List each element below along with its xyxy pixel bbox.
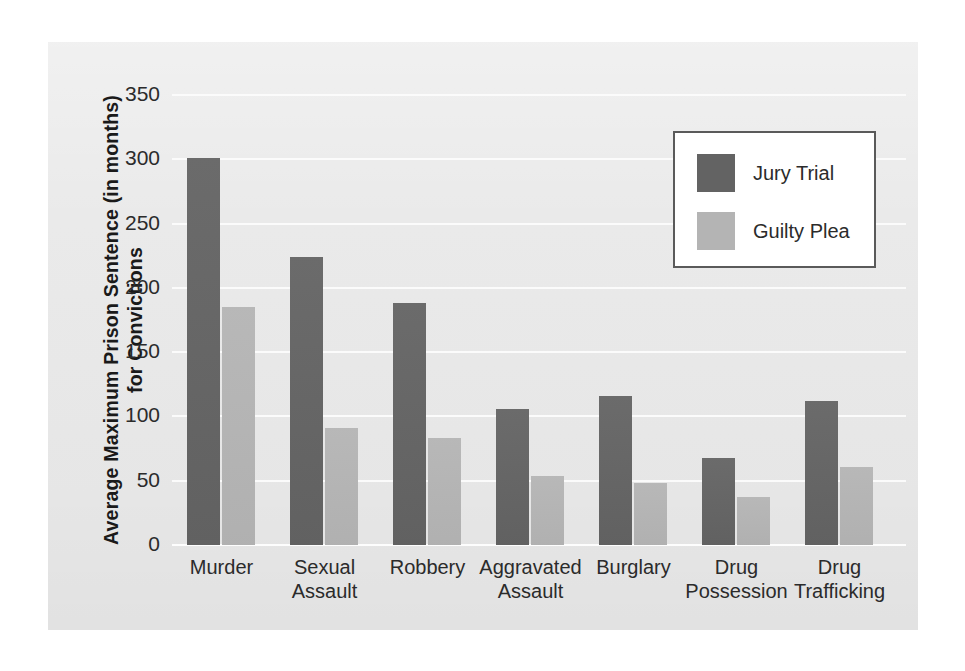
bar (702, 458, 735, 545)
bar-group (584, 95, 687, 545)
bar (393, 303, 426, 545)
bar (805, 401, 838, 545)
bar (222, 307, 255, 545)
bar (187, 158, 220, 545)
legend-item-guilty-plea: Guilty Plea (697, 212, 850, 250)
x-axis-tick-label-line: Drug (777, 556, 902, 580)
legend-item-jury-trial: Jury Trial (697, 154, 834, 192)
legend-label-guilty-plea: Guilty Plea (753, 220, 850, 243)
bar (428, 438, 461, 545)
bar (840, 467, 873, 545)
x-axis-tick-label-line: Assault (468, 580, 593, 604)
legend-swatch-icon-jury-trial (697, 154, 735, 192)
bar (496, 409, 529, 545)
bar (290, 257, 323, 545)
x-axis-tick-label: DrugTrafficking (777, 556, 902, 603)
y-axis-title-line-2: for Convictions (124, 247, 146, 393)
chart-figure: Average Maximum Prison Sentence (in mont… (0, 0, 965, 671)
bar-group (481, 95, 584, 545)
bar (634, 483, 667, 545)
legend-swatch-icon-guilty-plea (697, 212, 735, 250)
chart-legend: Jury Trial Guilty Plea (673, 131, 876, 268)
x-axis-tick-label-line: Trafficking (777, 580, 902, 604)
bar (599, 396, 632, 545)
bar-group (275, 95, 378, 545)
x-axis-tick-label-line: Assault (262, 580, 387, 604)
bar (531, 476, 564, 545)
y-axis-title-line-1: Average Maximum Prison Sentence (in mont… (100, 95, 122, 545)
y-axis-title: Average Maximum Prison Sentence (in mont… (96, 95, 152, 545)
bar (737, 497, 770, 545)
bar-group (378, 95, 481, 545)
legend-label-jury-trial: Jury Trial (753, 162, 834, 185)
bar (325, 428, 358, 545)
bar-group (172, 95, 275, 545)
